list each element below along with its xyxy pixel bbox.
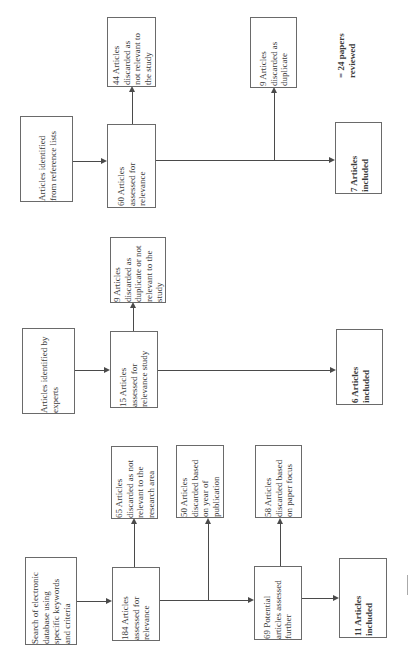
box-label: 6 Articles included [349,331,370,403]
box-11-included: 11 Articles included [339,558,387,638]
total-papers-note: = 24 papers reviewed [336,18,357,78]
box-50-discarded: 50 Articles discarded based on year of p… [176,445,224,518]
connector [280,523,281,566]
connector [73,161,103,162]
box-reference-lists-source: Articles identified from reference lists [20,116,73,202]
arrow-up-icon [277,518,283,524]
connector [208,523,209,600]
box-label: 9 Articles discarded as duplicate or not… [112,238,165,302]
box-label: 184 Articles assessed for relevance [120,568,152,640]
connector [160,600,250,601]
box-label: 9 Articles discarded as duplicate [258,20,290,86]
box-label: Articles identified by experts [38,329,59,413]
box-label: 69 Potential articles assessed further [262,567,294,639]
box-label: 7 Articles included [348,124,369,192]
box-69-potential: 69 Potential articles assessed further [254,566,302,640]
box-184-assessed: 184 Articles assessed for relevance [112,567,160,641]
box-65-discarded: 65 Articles discarded as not relevant to… [111,446,158,519]
box-label: 11 Articles included [353,560,374,636]
box-label: 60 Articles assessed for relevance [116,126,148,206]
connector [77,601,108,602]
box-7-included: 7 Articles included [335,122,382,194]
box-label: 15 Articles assessed for relevance study [118,333,150,407]
box-label: 58 Articles discarded based on paper foc… [263,447,295,517]
box-label: Articles identified from reference lists [36,117,57,201]
box-label: 50 Articles discarded based on year of p… [179,447,221,517]
box-experts-source: Articles identified by experts [22,328,75,414]
box-9-duplicate-or-irrelevant: 9 Articles discarded as duplicate or not… [110,237,166,303]
box-60-assessed: 60 Articles assessed for relevance [107,124,156,208]
box-58-discarded: 58 Articles discarded based on paper foc… [255,445,302,518]
connector [158,370,331,371]
box-44-discarded: 44 Articles discarded as not relevant to… [107,17,156,87]
connector [134,523,135,567]
connector [133,307,134,331]
connector [274,92,275,160]
box-label: 65 Articles discarded as not relevant to… [114,448,156,518]
scan-artifact [407,575,408,595]
connector [156,160,330,161]
box-label: Search of electronic database using spec… [30,558,72,644]
connector [302,598,334,599]
arrow-up-icon [205,518,211,524]
box-electronic-search-source: Search of electronic database using spec… [25,557,77,645]
box-label: 44 Articles discarded as not relevant to… [111,19,153,85]
box-6-included: 6 Articles included [336,329,383,405]
box-9-duplicate: 9 Articles discarded as duplicate [250,17,297,88]
box-15-assessed: 15 Articles assessed for relevance study [110,331,158,408]
connector [75,370,105,371]
connector [132,91,133,124]
